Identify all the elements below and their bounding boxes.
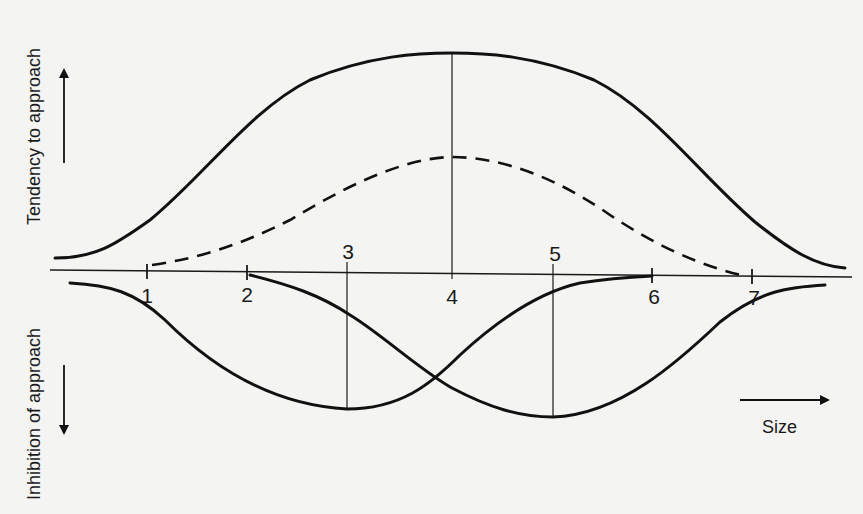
y-axis-upper-label: Tendency to approach (24, 48, 44, 225)
diagram-stage: 1 2 3 4 5 6 7 Tendency to approach Inhib… (0, 0, 863, 514)
tendency-to-approach-curve (55, 53, 845, 268)
tick-label-6: 6 (648, 285, 660, 308)
tick-label-3: 3 (342, 240, 354, 263)
tick-label-5: 5 (549, 242, 561, 265)
approach-inhibition-diagram: 1 2 3 4 5 6 7 Tendency to approach Inhib… (0, 0, 863, 514)
x-axis-label: Size (762, 417, 797, 437)
y-axis-lower-label: Inhibition of approach (24, 328, 44, 500)
inhibition-curve-a (70, 276, 652, 409)
net-approach-dashed-curve (152, 157, 745, 276)
tick-label-4: 4 (446, 285, 458, 308)
inhibition-curve-b (250, 275, 825, 417)
tick-label-2: 2 (241, 283, 253, 306)
